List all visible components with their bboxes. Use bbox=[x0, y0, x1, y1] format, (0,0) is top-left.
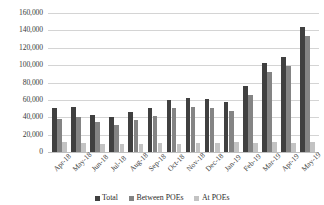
x-axis-tick-cell: Apr-18 bbox=[50, 152, 69, 186]
bar bbox=[243, 86, 248, 152]
bar-group bbox=[145, 13, 164, 152]
bar-group bbox=[164, 13, 183, 152]
x-axis-tick-cell: Jul-18 bbox=[107, 152, 126, 186]
bar bbox=[114, 125, 119, 152]
bar-group bbox=[222, 13, 241, 152]
plot-area bbox=[48, 13, 319, 152]
legend-item[interactable]: At POEs bbox=[194, 194, 229, 202]
y-axis-tick-label: 100,000 bbox=[19, 61, 43, 69]
bar bbox=[134, 120, 139, 152]
bar bbox=[177, 144, 182, 152]
x-axis-tick-label: Jan-19 bbox=[223, 153, 242, 172]
bar bbox=[300, 27, 305, 152]
bar bbox=[109, 117, 114, 152]
bar bbox=[172, 108, 177, 152]
y-axis-tick-label: 80,000 bbox=[23, 79, 43, 87]
x-axis-tick-cell: Aug-18 bbox=[126, 152, 145, 186]
bar bbox=[205, 99, 210, 152]
y-axis: 020,00040,00060,00080,000100,000120,0001… bbox=[0, 0, 47, 145]
legend-label: At POEs bbox=[202, 194, 230, 202]
bar bbox=[100, 144, 105, 152]
bar bbox=[128, 112, 133, 152]
x-axis-tick-cell: Mar-19 bbox=[260, 152, 279, 186]
x-axis-tick-label: Jul-18 bbox=[109, 154, 127, 172]
bar bbox=[153, 116, 158, 152]
x-axis: Apr-18May-18Jun-18Jul-18Aug-18Sep-18Oct-… bbox=[48, 152, 319, 186]
bar bbox=[148, 108, 153, 152]
x-axis-tick-cell: Nov-18 bbox=[184, 152, 203, 186]
bar bbox=[281, 57, 286, 152]
legend-label: Between POEs bbox=[136, 194, 183, 202]
x-axis-tick-cell: Feb-19 bbox=[241, 152, 260, 186]
legend-swatch-icon bbox=[129, 196, 134, 201]
legend-item[interactable]: Between POEs bbox=[129, 194, 184, 202]
bar bbox=[76, 117, 81, 152]
chart-legend: TotalBetween POEsAt POEs bbox=[0, 194, 324, 202]
bar bbox=[57, 119, 62, 152]
bar bbox=[90, 115, 95, 152]
y-axis-tick-label: 20,000 bbox=[23, 131, 43, 139]
bar-group bbox=[126, 13, 145, 152]
bar bbox=[262, 63, 267, 152]
x-axis-tick-cell: May-18 bbox=[69, 152, 88, 186]
bar-group bbox=[50, 13, 69, 152]
bar-group bbox=[241, 13, 260, 152]
legend-label: Total bbox=[102, 194, 118, 202]
bar bbox=[95, 122, 100, 152]
bar bbox=[210, 108, 215, 152]
bars-layer bbox=[48, 13, 319, 152]
y-axis-tick-label: 40,000 bbox=[23, 113, 43, 121]
bar bbox=[229, 111, 234, 152]
plot-wrapper: 020,00040,00060,00080,000100,000120,0001… bbox=[0, 0, 324, 168]
bar bbox=[62, 142, 67, 152]
bar bbox=[234, 142, 239, 152]
bar-chart: 020,00040,00060,00080,000100,000120,0001… bbox=[0, 0, 324, 205]
x-axis-tick-label: May-19 bbox=[300, 151, 322, 173]
bar-group bbox=[107, 13, 126, 152]
bar-group bbox=[88, 13, 107, 152]
bar bbox=[71, 107, 76, 152]
bar bbox=[120, 144, 125, 152]
y-axis-tick-label: 120,000 bbox=[19, 44, 43, 52]
bar bbox=[186, 98, 191, 152]
y-axis-tick-label: 60,000 bbox=[23, 96, 43, 104]
bar bbox=[253, 143, 258, 152]
x-axis-tick-cell: Dec-18 bbox=[203, 152, 222, 186]
x-axis-tick-cell: Jan-19 bbox=[222, 152, 241, 186]
bar-group bbox=[203, 13, 222, 152]
bar bbox=[248, 95, 253, 152]
bar bbox=[191, 107, 196, 152]
bar bbox=[158, 143, 163, 152]
y-axis-tick-label: 0 bbox=[39, 148, 43, 156]
legend-swatch-icon bbox=[95, 196, 100, 201]
bar bbox=[305, 36, 310, 152]
legend-swatch-icon bbox=[194, 196, 199, 201]
y-axis-tick-label: 160,000 bbox=[19, 9, 43, 17]
y-axis-tick-label: 140,000 bbox=[19, 27, 43, 35]
x-axis-tick-cell: Apr-19 bbox=[279, 152, 298, 186]
bar-group bbox=[279, 13, 298, 152]
bar bbox=[224, 102, 229, 152]
bar-group bbox=[260, 13, 279, 152]
bar-group bbox=[69, 13, 88, 152]
bar-group bbox=[298, 13, 317, 152]
x-axis-tick-cell: Sep-18 bbox=[145, 152, 164, 186]
bar-group bbox=[184, 13, 203, 152]
bar bbox=[267, 72, 272, 152]
x-axis-tick-cell: Jun-18 bbox=[88, 152, 107, 186]
bar bbox=[167, 100, 172, 152]
x-axis-tick-cell: Oct-18 bbox=[164, 152, 183, 186]
bar bbox=[286, 66, 291, 152]
legend-item[interactable]: Total bbox=[95, 194, 118, 202]
x-axis-tick-cell: May-19 bbox=[298, 152, 317, 186]
bar bbox=[52, 108, 57, 152]
